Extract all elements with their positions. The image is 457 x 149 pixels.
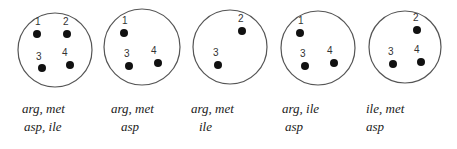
- panel-5-caption-line2: asp: [366, 118, 404, 136]
- dot-2: [63, 30, 71, 38]
- outline-circle: [18, 13, 92, 87]
- outline-circle: [369, 11, 441, 83]
- panel-1-caption-line2: asp, ile: [22, 118, 65, 136]
- dot-label-4: 4: [62, 47, 68, 58]
- dot-label-3: 3: [36, 51, 42, 62]
- dot-label-2: 2: [413, 12, 419, 23]
- dot-3: [38, 64, 46, 72]
- panel-2-caption-line1: arg, met: [111, 100, 154, 118]
- panel-5-caption-line1: ile, met: [366, 100, 404, 118]
- panel-3-caption-line1: arg, met: [191, 100, 234, 118]
- panel-1-caption-line1: arg, met: [22, 100, 65, 118]
- panel-3: 23: [193, 10, 267, 84]
- dot-label-4: 4: [327, 45, 333, 56]
- dot-label-3: 3: [213, 47, 219, 58]
- dot-4: [154, 59, 162, 67]
- dot-label-4: 4: [414, 44, 420, 55]
- panel-1: 1234: [18, 13, 92, 87]
- dot-label-3: 3: [124, 48, 130, 59]
- dot-1: [296, 29, 304, 37]
- dot-label-4: 4: [151, 45, 157, 56]
- panel-2-caption: arg, metasp: [111, 100, 154, 136]
- panel-3-caption: arg, metile: [191, 100, 234, 136]
- dot-3: [214, 61, 222, 69]
- dot-4: [417, 58, 425, 66]
- panel-4-caption-line1: arg, ile: [282, 100, 319, 118]
- dot-label-1: 1: [122, 15, 128, 26]
- dot-1: [120, 29, 128, 37]
- panel-1-caption: arg, metasp, ile: [22, 100, 65, 136]
- outline-circle: [281, 11, 355, 85]
- dot-4: [330, 59, 338, 67]
- dot-3: [125, 62, 133, 70]
- dot-label-1: 1: [298, 15, 304, 26]
- dot-label-2: 2: [238, 13, 244, 24]
- panel-4: 134: [281, 11, 355, 85]
- dot-3: [389, 60, 397, 68]
- dot-4: [66, 61, 74, 69]
- dot-3: [301, 62, 309, 70]
- dot-label-1: 1: [35, 16, 41, 27]
- dot-1: [33, 30, 41, 38]
- dot-label-3: 3: [388, 46, 394, 57]
- dot-label-2: 2: [63, 16, 69, 27]
- panel-2: 134: [104, 9, 180, 85]
- outline-circle: [104, 9, 180, 85]
- dot-2: [413, 26, 421, 34]
- panel-5-caption: ile, metasp: [366, 100, 404, 136]
- outline-circle: [193, 10, 267, 84]
- panel-2-caption-line2: asp: [111, 118, 154, 136]
- panel-4-caption: arg, ileasp: [282, 100, 319, 136]
- panel-4-caption-line2: asp: [282, 118, 319, 136]
- panel-5: 234: [369, 11, 441, 83]
- dot-label-3: 3: [300, 48, 306, 59]
- dot-2: [238, 27, 246, 35]
- panel-3-caption-line2: ile: [191, 118, 234, 136]
